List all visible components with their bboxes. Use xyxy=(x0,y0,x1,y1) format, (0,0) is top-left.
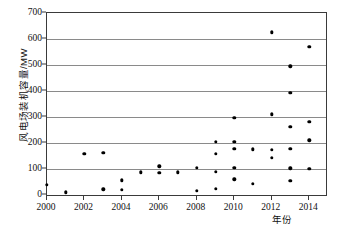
data-point xyxy=(139,170,142,173)
gridline xyxy=(47,117,326,118)
data-point xyxy=(64,191,67,194)
data-point xyxy=(307,45,310,48)
data-point xyxy=(307,120,310,123)
gridline xyxy=(47,143,326,144)
x-tick-label: 2008 xyxy=(186,202,205,212)
data-point xyxy=(101,188,104,191)
x-tick-mark xyxy=(196,196,197,200)
data-point xyxy=(101,151,104,154)
data-point xyxy=(158,171,161,174)
data-point xyxy=(307,139,310,142)
data-point xyxy=(45,183,48,186)
y-tick-label: 700 xyxy=(0,7,42,17)
x-tick-mark xyxy=(233,196,234,200)
x-tick-mark xyxy=(83,196,84,200)
x-tick-label: 2000 xyxy=(37,202,56,212)
data-point xyxy=(214,187,217,190)
x-axis-title: 年份 xyxy=(272,212,293,226)
x-tick-mark xyxy=(121,196,122,200)
y-tick-label: 300 xyxy=(0,111,42,121)
gridline xyxy=(47,65,326,66)
data-point xyxy=(270,156,273,159)
data-point xyxy=(307,167,310,170)
data-point xyxy=(270,148,273,151)
data-point xyxy=(289,179,292,182)
gridline xyxy=(47,169,326,170)
wind-farm-capacity-scatter-chart: 风电场装机容量/MW 0100200300400500600700 200020… xyxy=(0,0,339,233)
plot-area xyxy=(46,12,327,196)
y-tick-label: 0 xyxy=(0,189,42,199)
x-tick-label: 2012 xyxy=(261,202,280,212)
data-point xyxy=(176,170,179,173)
gridline xyxy=(47,39,326,40)
y-tick-label: 500 xyxy=(0,59,42,69)
data-point xyxy=(214,170,217,173)
data-point xyxy=(251,148,254,151)
x-tick-mark xyxy=(308,196,309,200)
data-point xyxy=(289,147,292,150)
data-point xyxy=(233,178,236,181)
y-tick-label: 200 xyxy=(0,137,42,147)
y-axis-tick-labels: 0100200300400500600700 xyxy=(0,12,42,196)
x-tick-mark xyxy=(158,196,159,200)
data-point xyxy=(83,152,86,155)
data-point xyxy=(120,188,123,191)
data-point xyxy=(270,113,273,116)
data-point xyxy=(289,125,292,128)
data-point xyxy=(158,164,161,167)
x-tick-label: 2014 xyxy=(299,202,318,212)
data-point xyxy=(289,65,292,68)
data-point xyxy=(270,31,273,34)
y-tick-label: 400 xyxy=(0,85,42,95)
x-tick-mark xyxy=(46,196,47,200)
x-tick-label: 2004 xyxy=(111,202,130,212)
x-tick-label: 2010 xyxy=(224,202,243,212)
gridline xyxy=(47,91,326,92)
data-point xyxy=(120,178,123,181)
data-point xyxy=(233,116,236,119)
data-point xyxy=(233,147,236,150)
data-point xyxy=(214,152,217,155)
y-tick-label: 600 xyxy=(0,33,42,43)
y-tick-label: 100 xyxy=(0,163,42,173)
data-point xyxy=(251,182,254,185)
x-tick-label: 2002 xyxy=(74,202,93,212)
data-point xyxy=(289,91,292,94)
x-tick-mark xyxy=(271,196,272,200)
data-point xyxy=(195,189,198,192)
x-tick-label: 2006 xyxy=(149,202,168,212)
